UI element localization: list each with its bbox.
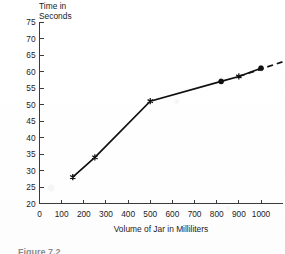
x-tick-label: 800 bbox=[210, 209, 224, 219]
x-tick-label: 600 bbox=[165, 209, 179, 219]
y-axis-ticks: 202530354045505560657075 bbox=[26, 17, 43, 209]
x-tick-label: 400 bbox=[121, 209, 135, 219]
y-tick-label: 35 bbox=[26, 149, 36, 159]
y-tick-label: 30 bbox=[26, 166, 36, 176]
y-tick-label: 60 bbox=[26, 67, 36, 77]
data-point-dot bbox=[258, 66, 263, 71]
x-tick-label: 900 bbox=[232, 209, 246, 219]
chart-series bbox=[73, 62, 283, 178]
y-tick-label: 70 bbox=[26, 34, 36, 44]
y-tick-label: 25 bbox=[26, 182, 36, 192]
x-tick-label: 100 bbox=[55, 209, 69, 219]
x-tick-label: 700 bbox=[188, 209, 202, 219]
line-chart: 202530354045505560657075 010020030040050… bbox=[0, 0, 285, 254]
x-axis-ticks: 01002003004005006007008009001000 bbox=[37, 200, 270, 219]
data-line bbox=[73, 68, 261, 177]
data-point-dot bbox=[219, 79, 224, 84]
y-tick-label: 50 bbox=[26, 100, 36, 110]
chart-axes bbox=[40, 22, 284, 204]
y-tick-label: 40 bbox=[26, 133, 36, 143]
x-tick-label: 500 bbox=[143, 209, 157, 219]
chart-markers bbox=[70, 66, 264, 181]
y-tick-label: 45 bbox=[26, 116, 36, 126]
x-tick-label: 1000 bbox=[252, 209, 271, 219]
y-tick-label: 55 bbox=[26, 83, 36, 93]
x-tick-label: 300 bbox=[99, 209, 113, 219]
x-axis-title: Volume of Jar in Milliliters bbox=[39, 224, 283, 234]
figure-caption: Figure 7.2 bbox=[18, 247, 268, 254]
x-tick-label: 0 bbox=[37, 209, 42, 219]
y-tick-label: 65 bbox=[26, 50, 36, 60]
y-tick-label: 20 bbox=[26, 199, 36, 209]
y-tick-label: 75 bbox=[26, 17, 36, 27]
figure-container: Time inSeconds 202530354045505560657075 … bbox=[0, 0, 285, 254]
x-tick-label: 200 bbox=[77, 209, 91, 219]
